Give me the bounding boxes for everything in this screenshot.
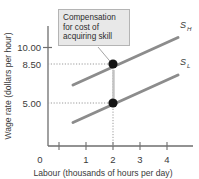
compensation-annotation-box: Compensation for cost of acquiring skill bbox=[58, 9, 130, 46]
xtick-label-1: 1 bbox=[83, 154, 88, 165]
supply-curve-unskilled bbox=[73, 75, 178, 123]
xtick-label-4: 4 bbox=[164, 154, 169, 165]
xtick-label-2: 2 bbox=[110, 154, 115, 165]
y-axis-title: Wage rate (dollars per hour) bbox=[3, 32, 13, 139]
ytick-label-8-50: 8.50 bbox=[23, 59, 42, 70]
curve-label-unskilled: S bbox=[180, 57, 186, 67]
annotation-line-2: for cost of bbox=[63, 23, 125, 33]
x-axis-title: Labour (thousands of hours per day) bbox=[33, 168, 172, 178]
xtick-label-3: 3 bbox=[137, 154, 142, 165]
xtick-label-0: 0 bbox=[37, 154, 42, 165]
unskilled-equilibrium-point bbox=[108, 98, 117, 107]
annotation-line-3: acquiring skill bbox=[63, 32, 125, 42]
curve-label-unskilled-subscript: L bbox=[187, 62, 191, 69]
annotation-line-1: Compensation bbox=[63, 13, 125, 23]
curve-label-skilled-subscript: H bbox=[187, 25, 192, 32]
wage-supply-chart: 10.00 8.50 5.00 0 1 2 3 4 Labour (thousa… bbox=[0, 0, 199, 179]
skilled-equilibrium-point bbox=[108, 59, 117, 68]
ytick-label-10-00: 10.00 bbox=[17, 42, 41, 53]
curve-label-skilled: S bbox=[180, 20, 186, 30]
ytick-label-5-00: 5.00 bbox=[23, 98, 42, 109]
